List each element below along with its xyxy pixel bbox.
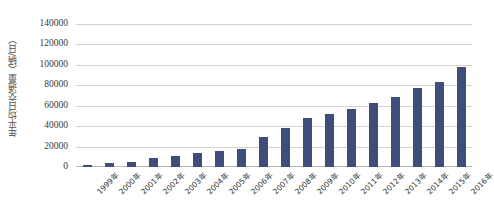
bar <box>171 156 180 167</box>
x-axis-tick-label: 1999年 <box>94 170 120 196</box>
y-axis-tick-label: 100000 <box>40 60 69 70</box>
y-axis-tick-label: 20000 <box>44 142 68 152</box>
bar <box>281 128 290 167</box>
x-axis-tick-label: 2014年 <box>424 170 450 196</box>
bar <box>369 103 378 167</box>
y-axis-tick-label: 80000 <box>44 80 68 90</box>
x-axis-tick-label: 2010年 <box>336 170 362 196</box>
x-axis-tick-label: 2005年 <box>226 170 252 196</box>
y-axis-tick-label: 140000 <box>40 19 69 29</box>
bar <box>413 88 422 167</box>
x-axis-tick-label: 2006年 <box>248 170 274 196</box>
x-axis-tick-label: 2013年 <box>402 170 428 196</box>
plot-area <box>76 24 472 167</box>
bar <box>457 67 466 167</box>
bar <box>325 114 334 167</box>
y-axis-tick-label: 40000 <box>44 121 68 131</box>
x-axis-tick-label: 2002年 <box>160 170 186 196</box>
bar <box>237 149 246 167</box>
bar <box>149 158 158 167</box>
x-axis-tick-label: 2016年 <box>468 170 494 196</box>
x-axis-tick-label: 2015年 <box>446 170 472 196</box>
bar <box>435 82 444 167</box>
bar <box>259 137 268 167</box>
x-axis-tick-label: 2012年 <box>380 170 406 196</box>
x-axis-tick-label: 2003年 <box>182 170 208 196</box>
x-axis-tick-label: 2011年 <box>358 170 384 196</box>
x-axis-tick-label: 2007年 <box>270 170 296 196</box>
y-axis-tick-labels: 020000400006000080000100000120000140000 <box>0 0 72 219</box>
x-axis-tick-label: 2001年 <box>138 170 164 196</box>
bar <box>303 118 312 167</box>
y-axis-tick-label: 0 <box>63 162 68 172</box>
x-axis-tick-label: 2004年 <box>204 170 230 196</box>
bar-series <box>76 24 472 167</box>
bar <box>215 151 224 167</box>
x-axis-tick-label: 2008年 <box>292 170 318 196</box>
x-axis-tick-label: 2000年 <box>116 170 142 196</box>
y-axis-tick-label: 120000 <box>40 39 69 49</box>
x-axis-tick-label: 2009年 <box>314 170 340 196</box>
x-axis-tick-labels: 1999年2000年2001年2002年2003年2004年2005年2006年… <box>76 167 472 219</box>
bar <box>391 97 400 167</box>
bar <box>193 153 202 167</box>
bar <box>347 109 356 167</box>
y-axis-tick-label: 60000 <box>44 101 68 111</box>
